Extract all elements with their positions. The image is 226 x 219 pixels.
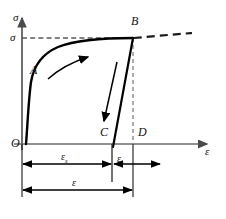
loading-arrow xyxy=(48,57,88,79)
unloading-arrow xyxy=(104,62,117,121)
stress-level-label: σ xyxy=(10,32,15,43)
dim-label-eps-total: ε xyxy=(72,178,76,191)
dashed-curve-extension xyxy=(134,33,192,38)
dim-label-eps-s: εs xyxy=(61,152,67,165)
dim-label-eps-s-sub: s xyxy=(65,157,68,164)
point-label-d: D xyxy=(138,126,147,138)
point-label-b: B xyxy=(131,15,138,27)
unloading-line xyxy=(113,38,133,147)
dim-label-eps-r-sub: r xyxy=(121,159,124,166)
x-axis-label: ε xyxy=(205,146,209,157)
dim-label-eps-total-base: ε xyxy=(72,177,76,188)
y-axis-label: σ xyxy=(13,12,18,23)
point-label-a: A xyxy=(30,64,37,76)
point-label-c: C xyxy=(100,126,108,138)
dim-label-eps-r: εr xyxy=(117,154,123,167)
point-label-o: O xyxy=(11,137,20,149)
stress-strain-figure xyxy=(0,0,226,219)
